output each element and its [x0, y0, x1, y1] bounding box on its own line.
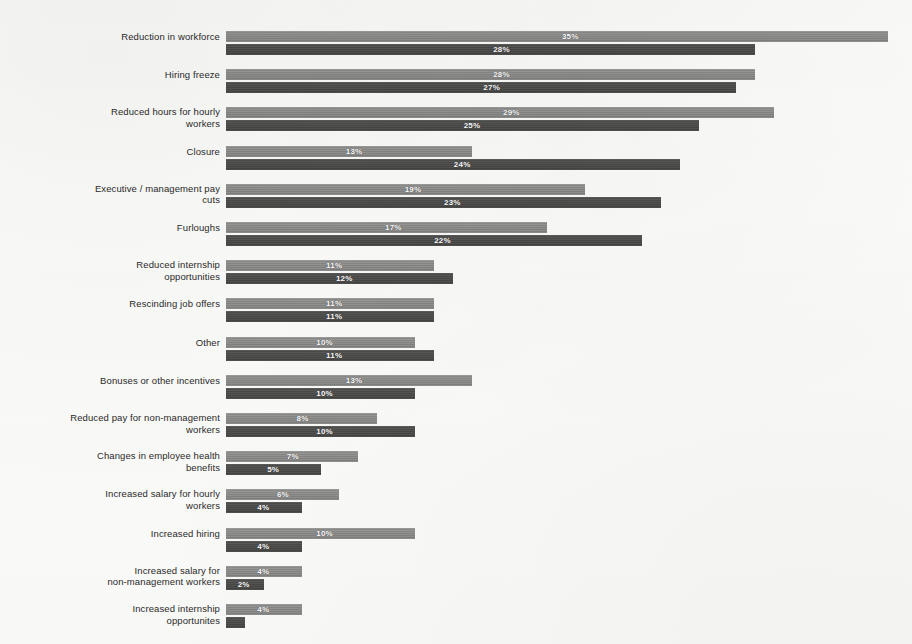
- bar-value-label: 12%: [336, 273, 353, 284]
- bar-fill: [226, 82, 736, 93]
- category-label: Changes in employee healthbenefits: [10, 450, 220, 473]
- category-label: Furloughs: [10, 222, 220, 234]
- category-label-line: Increased hiring: [10, 528, 220, 540]
- category-label: Increased salary for hourlyworkers: [10, 488, 220, 511]
- category-label: Reduced internshipopportunities: [10, 259, 220, 282]
- category-label: Other: [10, 337, 220, 349]
- category-label: Closure: [10, 146, 220, 158]
- bar-value-label: 11%: [326, 260, 342, 271]
- category-label: Increased hiring: [10, 528, 220, 540]
- bar-value-label: 2%: [238, 579, 250, 590]
- bar-value-label: 5%: [267, 464, 279, 475]
- bar-fill: [226, 120, 699, 131]
- bar-fill: [226, 617, 245, 628]
- bar-value-label: 35%: [562, 31, 579, 42]
- category-label-line: Reduction in workforce: [10, 31, 220, 43]
- bar-value-label: 19%: [405, 184, 422, 195]
- grouped-bar-chart: Reduction in workforce35%28%Hiring freez…: [0, 0, 912, 644]
- bar-value-label: 10%: [316, 528, 333, 539]
- bar-value-label: 8%: [297, 413, 309, 424]
- bar-fill: [226, 31, 888, 42]
- category-label-line: Increased salary for hourly: [10, 488, 220, 500]
- bar-value-label: 13%: [346, 146, 363, 157]
- category-label-line: Hiring freeze: [10, 69, 220, 81]
- bar-value-label: 7%: [287, 451, 299, 462]
- bar-fill: [226, 69, 755, 80]
- category-label-line: Bonuses or other incentives: [10, 375, 220, 387]
- category-label-line: Changes in employee health: [10, 450, 220, 462]
- bar-value-label: 4%: [257, 604, 269, 615]
- bar-value-label: 29%: [503, 107, 520, 118]
- bar-value-label: 17%: [385, 222, 402, 233]
- category-label: Reduced pay for non-managementworkers: [10, 412, 220, 435]
- bar-value-label: 4%: [257, 566, 269, 577]
- category-label: Hiring freeze: [10, 69, 220, 81]
- category-label-line: Rescinding job offers: [10, 298, 220, 310]
- bar-value-label: 25%: [464, 120, 481, 131]
- bar-value-label: 10%: [316, 388, 333, 399]
- bar-value-label: 11%: [326, 298, 342, 309]
- bar-value-label: 22%: [434, 235, 451, 246]
- category-label: Increased internshipopportunites: [10, 603, 220, 626]
- bar-value-label: 11%: [326, 311, 342, 322]
- bar-value-label: 24%: [454, 159, 471, 170]
- category-label-line: Closure: [10, 146, 220, 158]
- category-label-line: opportunites: [10, 615, 220, 627]
- category-label-line: Increased internship: [10, 603, 220, 615]
- bar-fill: [226, 44, 755, 55]
- bar-value-label: 28%: [493, 44, 510, 55]
- bar-value-label: 4%: [257, 541, 269, 552]
- category-label-line: workers: [10, 118, 220, 130]
- bar-value-label: 13%: [346, 375, 363, 386]
- category-label-line: Reduced hours for hourly: [10, 106, 220, 118]
- category-label-line: workers: [10, 500, 220, 512]
- bar-value-label: 11%: [326, 350, 342, 361]
- category-label-line: non-management workers: [10, 576, 220, 588]
- bar-value-label: 10%: [316, 337, 333, 348]
- category-label: Increased salary fornon-management worke…: [10, 565, 220, 588]
- bar-fill: [226, 107, 774, 118]
- category-label-line: Executive / management pay: [10, 183, 220, 195]
- category-label-line: Other: [10, 337, 220, 349]
- bar-value-label: 23%: [444, 197, 461, 208]
- category-label: Reduction in workforce: [10, 31, 220, 43]
- category-label-line: Furloughs: [10, 222, 220, 234]
- category-label: Rescinding job offers: [10, 298, 220, 310]
- category-label-line: benefits: [10, 462, 220, 474]
- category-label: Bonuses or other incentives: [10, 375, 220, 387]
- category-label-line: Reduced pay for non-management: [10, 412, 220, 424]
- category-label-line: opportunities: [10, 271, 220, 283]
- category-label-line: workers: [10, 424, 220, 436]
- bar-value-label: 28%: [493, 69, 510, 80]
- bar-value-label: 6%: [277, 489, 289, 500]
- bar-fill: [226, 159, 680, 170]
- bar-value-label: 10%: [316, 426, 333, 437]
- bar-value-label: 4%: [257, 502, 269, 513]
- category-label: Reduced hours for hourlyworkers: [10, 106, 220, 129]
- bar-value-label: 27%: [483, 82, 500, 93]
- category-label-line: Increased salary for: [10, 565, 220, 577]
- category-label-line: Reduced internship: [10, 259, 220, 271]
- category-label-line: cuts: [10, 194, 220, 206]
- category-label: Executive / management paycuts: [10, 183, 220, 206]
